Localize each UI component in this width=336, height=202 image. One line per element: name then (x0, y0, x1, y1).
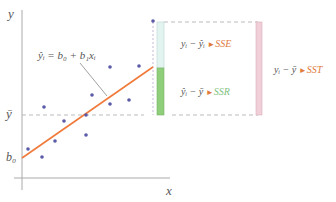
sst-term: yᵢ − ȳ ►SST (274, 64, 322, 75)
sst-expr: yᵢ − ȳ (274, 64, 296, 75)
arrow-icon: ► (206, 88, 214, 97)
ssr-term: ŷᵢ − ȳ ►SSR (181, 86, 230, 97)
x-axis-label: x (166, 183, 172, 199)
y-axis-label: y (8, 6, 14, 22)
ssr-bar (157, 68, 164, 115)
sst-name: SST (307, 64, 323, 75)
sse-expr: yᵢ − ŷᵢ (181, 38, 205, 49)
ybar-label: ȳ (6, 106, 12, 122)
equation-pointer (80, 63, 107, 96)
sse-term: yᵢ − ŷᵢ ►SSE (181, 38, 231, 49)
arrow-icon: ► (299, 66, 307, 75)
ssr-expr: ŷᵢ − ȳ (181, 86, 203, 97)
regression-line (22, 67, 153, 158)
regression-diagram (0, 0, 336, 202)
sse-bar (157, 22, 164, 68)
ssr-name: SSR (214, 86, 230, 97)
data-points (26, 19, 155, 159)
sse-name: SSE (215, 38, 231, 49)
regression-equation: ŷᵢ = b₀ + b₁xᵢ (38, 49, 96, 61)
intercept-label: b₀ (6, 150, 16, 165)
sst-bar (256, 22, 262, 115)
